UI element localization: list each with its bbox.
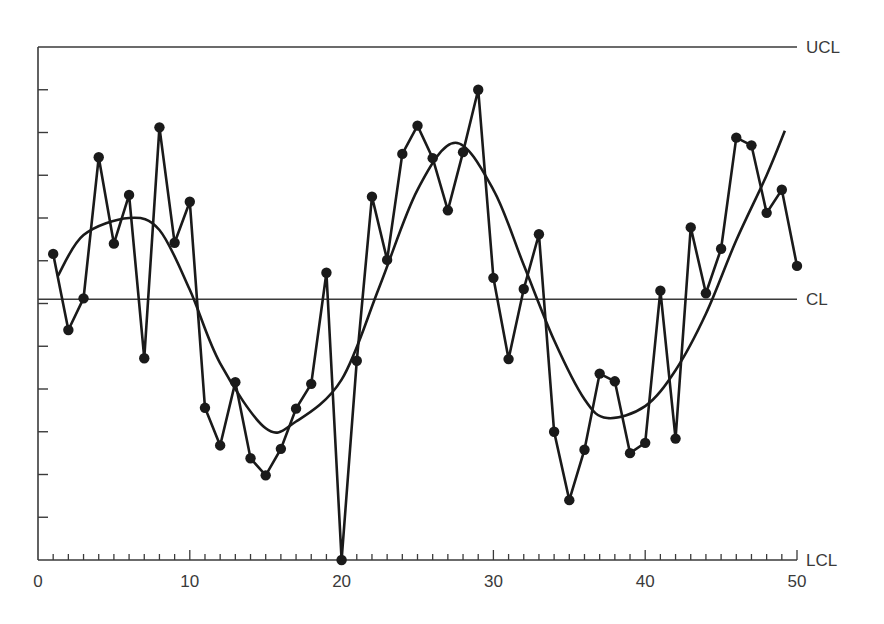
data-point-marker <box>549 427 559 437</box>
data-point-marker <box>48 249 58 259</box>
y-axis <box>38 47 48 560</box>
data-point-marker <box>686 222 696 232</box>
x-tick-label: 30 <box>484 572 503 591</box>
data-point-marker <box>185 197 195 207</box>
ucl-label: UCL <box>806 38 840 57</box>
data-point-marker <box>276 444 286 454</box>
data-point-marker <box>261 470 271 480</box>
data-point-marker <box>761 208 771 218</box>
x-axis-tick-labels: 01020304050 <box>33 572 806 591</box>
x-axis-ticks <box>53 550 797 560</box>
data-point-marker <box>336 555 346 565</box>
data-point-marker <box>215 440 225 450</box>
data-point-marker <box>154 122 164 132</box>
data-point-marker <box>245 453 255 463</box>
data-point-marker <box>200 403 210 413</box>
data-point-marker <box>670 433 680 443</box>
x-tick-label: 10 <box>180 572 199 591</box>
data-point-marker <box>610 376 620 386</box>
data-point-marker <box>397 149 407 159</box>
data-point-marker <box>503 354 513 364</box>
data-point-marker <box>139 353 149 363</box>
data-point-marker <box>443 205 453 215</box>
data-point-marker <box>169 238 179 248</box>
data-point-marker <box>564 495 574 505</box>
data-point-marker <box>109 238 119 248</box>
data-point-marker <box>594 368 604 378</box>
data-point-marker <box>777 185 787 195</box>
data-point-marker <box>458 147 468 157</box>
data-point-marker <box>488 273 498 283</box>
data-point-marker <box>94 152 104 162</box>
data-point-marker <box>291 403 301 413</box>
data-point-marker <box>352 356 362 366</box>
data-point-marker <box>701 288 711 298</box>
data-point-marker <box>534 229 544 239</box>
data-point-marker <box>367 191 377 201</box>
data-point-marker <box>427 153 437 163</box>
data-point-marker <box>655 285 665 295</box>
data-point-marker <box>473 85 483 95</box>
data-point-marker <box>306 379 316 389</box>
x-axis: 01020304050 <box>33 550 806 591</box>
cl-label: CL <box>806 290 828 309</box>
observation-markers <box>48 85 802 566</box>
control-limit-lines: UCLCLLCL <box>38 38 840 570</box>
data-point-marker <box>731 132 741 142</box>
x-tick-label: 50 <box>788 572 807 591</box>
x-tick-label: 0 <box>33 572 42 591</box>
data-point-marker <box>746 140 756 150</box>
data-point-marker <box>412 120 422 130</box>
x-tick-label: 40 <box>636 572 655 591</box>
observation-line <box>53 90 797 560</box>
y-axis-ticks <box>38 90 48 518</box>
data-point-marker <box>230 377 240 387</box>
data-point-marker <box>640 438 650 448</box>
x-tick-label: 20 <box>332 572 351 591</box>
data-point-marker <box>625 448 635 458</box>
data-point-marker <box>519 284 529 294</box>
data-point-marker <box>382 255 392 265</box>
data-point-marker <box>716 244 726 254</box>
data-point-marker <box>792 261 802 271</box>
data-point-marker <box>63 325 73 335</box>
control-chart: 01020304050 UCLCLLCL <box>0 0 884 624</box>
data-point-marker <box>78 293 88 303</box>
lcl-label: LCL <box>806 551 837 570</box>
data-point-marker <box>321 268 331 278</box>
data-point-marker <box>579 445 589 455</box>
data-point-marker <box>124 190 134 200</box>
